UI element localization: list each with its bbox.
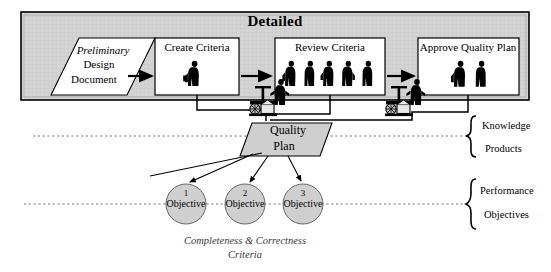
band-label-performance: Performance (480, 185, 534, 196)
objective-label-1: Objective (167, 199, 206, 210)
process-label-approve-quality-plan: Approve Quality Plan (420, 42, 517, 54)
objective-label-2: Objective (226, 199, 265, 210)
phase-title: Detailed (248, 13, 303, 29)
input-document-line2: Design (83, 59, 114, 71)
artifact-to-objective-arrows (150, 153, 301, 182)
band-label-objectives: Objectives (484, 209, 529, 220)
input-document-line3: Document (71, 74, 117, 86)
band-label-knowledge: Knowledge (482, 120, 530, 131)
artifact-line2: Plan (273, 140, 294, 153)
band-label-products: Products (485, 143, 522, 154)
input-document-line1: Preliminary (77, 45, 130, 57)
process-label-create-criteria: Create Criteria (164, 42, 229, 54)
caption-line1: Completeness & Correctness (184, 235, 306, 246)
artifact-line1: Quality (270, 124, 306, 137)
process-label-review-criteria: Review Criteria (295, 42, 365, 54)
objective-label-3: Objective (284, 199, 323, 210)
caption-line2: Criteria (228, 249, 262, 260)
diagram-canvas: Detailed Preliminary Design Document Cre… (0, 0, 551, 272)
brace-performance-objectives (466, 179, 476, 229)
brace-knowledge-products (466, 116, 476, 157)
